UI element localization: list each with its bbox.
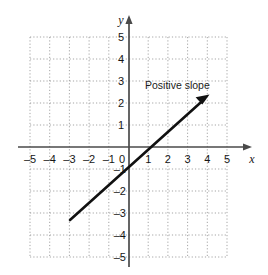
x-tick-label: 3 xyxy=(185,153,191,165)
x-tick-label: 5 xyxy=(224,153,230,165)
y-tick-label: –2 xyxy=(114,185,126,197)
axes-group xyxy=(18,15,252,267)
x-tick-label: 1 xyxy=(145,153,151,165)
y-tick-label: 3 xyxy=(118,75,124,87)
positive-slope-annotation: Positive slope xyxy=(145,79,210,91)
y-tick-label: 5 xyxy=(118,31,124,43)
y-tick-label: 2 xyxy=(118,97,124,109)
y-tick-label: –3 xyxy=(114,207,126,219)
coordinate-plane-svg: x y –5 –4 –3 –2 –1 0 1 2 3 4 5 5 4 3 2 1… xyxy=(0,0,268,275)
y-tick-label: –5 xyxy=(114,251,126,263)
y-axis-label: y xyxy=(117,13,124,27)
y-tick-label: 4 xyxy=(118,53,124,65)
x-axis-arrowhead xyxy=(243,143,252,150)
y-tick-label: –1 xyxy=(114,163,126,175)
graph-figure: x y –5 –4 –3 –2 –1 0 1 2 3 4 5 5 4 3 2 1… xyxy=(0,0,268,275)
y-axis-arrowhead xyxy=(125,15,132,24)
y-tick-label: –4 xyxy=(114,229,126,241)
x-tick-label: –4 xyxy=(44,153,56,165)
x-axis-label: x xyxy=(248,152,255,166)
y-tick-label: 1 xyxy=(118,119,124,131)
x-tick-label: 4 xyxy=(204,153,210,165)
x-tick-label: –3 xyxy=(63,153,75,165)
x-tick-labels: –5 –4 –3 –2 –1 0 1 2 3 4 5 xyxy=(24,153,230,165)
x-tick-label: –5 xyxy=(24,153,36,165)
x-tick-label: –2 xyxy=(83,153,95,165)
x-tick-label: 2 xyxy=(165,153,171,165)
